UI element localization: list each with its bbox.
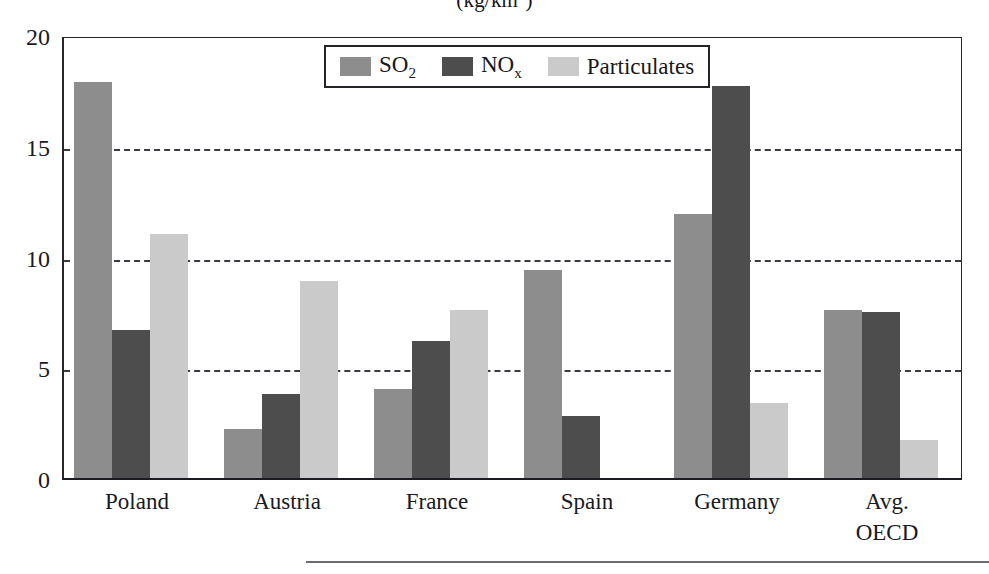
bar-part-austria — [300, 281, 338, 478]
bar-so2-spain — [524, 270, 562, 478]
bar-nox-avgoecd — [862, 312, 900, 478]
x-axis: PolandAustriaFranceSpainGermanyAvg. OECD — [62, 486, 962, 566]
legend-label-nox: NOx — [481, 53, 522, 80]
page-footer-rule — [306, 561, 989, 563]
bar-part-france — [450, 310, 488, 478]
legend-swatch-part — [548, 57, 579, 76]
bar-part-avgoecd — [900, 440, 938, 478]
x-tick-label-spain: Spain — [512, 486, 662, 517]
legend-label-subscript: x — [514, 64, 522, 81]
bar-so2-austria — [224, 429, 262, 478]
legend-label-subscript: 2 — [408, 64, 416, 81]
x-tick-label-avgoecd: Avg. OECD — [812, 486, 962, 548]
legend-item-so2: SO2 — [340, 53, 416, 80]
x-tick-label-poland: Poland — [62, 486, 212, 517]
bar-group-austria — [214, 38, 364, 478]
bar-so2-germany — [674, 214, 712, 478]
bar-so2-avgoecd — [824, 310, 862, 478]
legend-item-nox: NOx — [442, 53, 522, 80]
y-tick-label-5: 5 — [0, 357, 50, 381]
chart-title-main: (kg/km — [456, 0, 518, 12]
y-tick-label-0: 0 — [0, 468, 50, 492]
legend-label-so2: SO2 — [379, 53, 416, 80]
legend-label-part: Particulates — [587, 55, 694, 78]
bar-nox-germany — [712, 86, 750, 478]
y-axis: 05101520 — [0, 37, 52, 480]
legend-swatch-nox — [442, 57, 473, 76]
emissions-bar-chart: (kg/km2) 05101520 SO2NOxParticulates Pol… — [0, 0, 989, 574]
bar-so2-poland — [74, 82, 112, 478]
plot-area — [62, 37, 962, 480]
chart-title-exponent: 2 — [518, 0, 525, 2]
bar-nox-france — [412, 341, 450, 478]
bar-so2-france — [374, 389, 412, 478]
bar-group-france — [364, 38, 514, 478]
bar-group-avgoecd — [814, 38, 964, 478]
bar-part-germany — [750, 403, 788, 478]
y-tick-label-10: 10 — [0, 247, 50, 271]
legend-item-part: Particulates — [548, 55, 694, 78]
x-tick-label-france: France — [362, 486, 512, 517]
legend-swatch-so2 — [340, 57, 371, 76]
bar-group-poland — [64, 38, 214, 478]
x-tick-label-germany: Germany — [662, 486, 812, 517]
bar-part-poland — [150, 234, 188, 478]
bar-nox-spain — [562, 416, 600, 478]
bar-nox-austria — [262, 394, 300, 478]
x-tick-label-austria: Austria — [212, 486, 362, 517]
bar-nox-poland — [112, 330, 150, 478]
bar-group-spain — [514, 38, 664, 478]
bar-group-germany — [664, 38, 814, 478]
y-tick-label-15: 15 — [0, 136, 50, 160]
y-tick-label-20: 20 — [0, 25, 50, 49]
chart-legend: SO2NOxParticulates — [324, 45, 710, 88]
chart-title-tail: ) — [526, 0, 533, 12]
chart-title: (kg/km2) — [0, 0, 989, 13]
